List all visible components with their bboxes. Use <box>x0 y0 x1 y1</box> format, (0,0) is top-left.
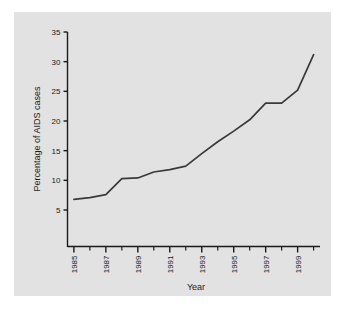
x-axis-tick-labels: 19851987198919911993199519971999 <box>70 255 303 273</box>
y-tick-label: 10 <box>52 176 61 185</box>
y-tick-label: 15 <box>52 147 61 156</box>
y-tick-label: 35 <box>52 28 61 37</box>
y-tick-label: 5 <box>56 206 61 215</box>
x-tick-label: 1991 <box>166 255 175 273</box>
line-chart: 5101520253035 19851987198919911993199519… <box>0 0 344 315</box>
x-axis-title: Year <box>187 282 205 292</box>
x-tick-label: 1997 <box>262 255 271 273</box>
y-tick-label: 20 <box>52 117 61 126</box>
x-tick-label: 1987 <box>102 255 111 273</box>
y-tick-label: 25 <box>52 87 61 96</box>
x-tick-label: 1985 <box>70 255 79 273</box>
figure-canvas: 5101520253035 19851987198919911993199519… <box>0 0 344 315</box>
y-axis-tick-labels: 5101520253035 <box>52 28 61 215</box>
x-tick-label: 1995 <box>230 255 239 273</box>
y-tick-label: 30 <box>52 58 61 67</box>
y-axis-title: Percentage of AIDS cases <box>32 86 42 192</box>
x-tick-label: 1989 <box>134 255 143 273</box>
x-tick-label: 1999 <box>294 255 303 273</box>
x-tick-label: 1993 <box>198 255 207 273</box>
data-series-line <box>74 55 314 200</box>
